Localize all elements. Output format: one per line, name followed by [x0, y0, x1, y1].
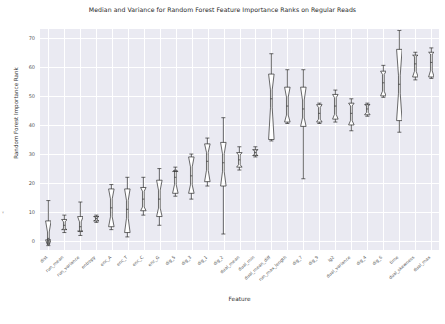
y-axis-label-wrap: Random Forest Importance Rank [0, 0, 1, 1]
x-axis-ticks: distrun_meanrun_varianceentropyenc_Aenc_… [0, 252, 445, 307]
chart-title: Median and Variance for Random Forest Fe… [0, 6, 445, 13]
chart-root: Median and Variance for Random Forest Fe… [0, 0, 445, 324]
corner-marker: ᵧ [2, 208, 4, 214]
y-axis-ticks: 010203040506070 [0, 29, 445, 250]
y-axis-label: Random Forest Importance Rank [13, 3, 19, 223]
y-tick-label: 0 [0, 238, 35, 244]
